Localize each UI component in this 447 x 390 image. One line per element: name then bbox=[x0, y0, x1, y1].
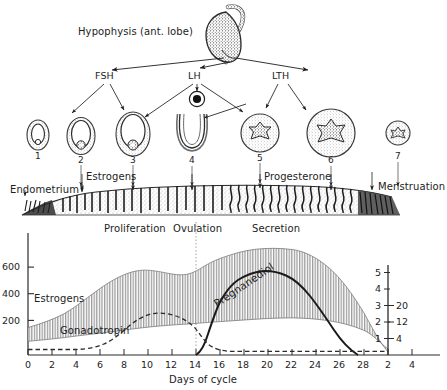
x-tick-10: 10 bbox=[141, 360, 153, 370]
figure-root: Hypophysis (ant. lobe) FSH LH LTH 1 2 3 … bbox=[0, 0, 447, 390]
x-tick-14: 14 bbox=[189, 360, 201, 370]
series-label-estrogens: Estrogens bbox=[34, 294, 84, 304]
stage-number-5: 5 bbox=[257, 154, 263, 163]
hypophysis-label: Hypophysis (ant. lobe) bbox=[78, 27, 193, 37]
y-right2-tick-4: 4 bbox=[396, 334, 402, 344]
y-right-tick-4: 4 bbox=[375, 284, 381, 294]
y-left-tick-200: 200 bbox=[2, 316, 20, 326]
y-right2-tick-20: 20 bbox=[396, 301, 408, 311]
target-arrows bbox=[72, 84, 306, 118]
x-tick-8: 8 bbox=[121, 360, 127, 370]
y-right-tick-5: 5 bbox=[375, 268, 381, 278]
phase-label-secretion: Secretion bbox=[252, 224, 300, 234]
hormone-label-fsh: FSH bbox=[95, 71, 114, 81]
x-axis-title: Days of cycle bbox=[169, 375, 237, 385]
x-tick-6: 6 bbox=[97, 360, 103, 370]
follicle-stage-1 bbox=[27, 120, 49, 150]
x-tick-next-2: 2 bbox=[385, 360, 391, 370]
follicle-stage-3 bbox=[116, 112, 150, 156]
x-tick-28: 28 bbox=[357, 360, 369, 370]
corpus-luteum-stage-6 bbox=[307, 109, 355, 157]
y-right-tick-1: 1 bbox=[375, 334, 381, 344]
stage-number-3: 3 bbox=[130, 156, 136, 165]
progesterone-annotation-label: Progesterone bbox=[264, 172, 331, 182]
ovum-icon bbox=[189, 91, 204, 106]
stage-number-6: 6 bbox=[328, 156, 334, 165]
endometrium-label: Endometrium bbox=[10, 185, 79, 195]
x-tick-22: 22 bbox=[285, 360, 297, 370]
hormone-label-lth: LTH bbox=[272, 71, 289, 81]
x-tick-next-4: 4 bbox=[409, 360, 415, 370]
phase-label-proliferation: Proliferation bbox=[104, 224, 166, 234]
stage-number-7: 7 bbox=[395, 152, 401, 161]
estrogens-annotation-label: Estrogens bbox=[86, 172, 136, 182]
x-tick-4: 4 bbox=[73, 360, 79, 370]
y-right2-tick-12: 12 bbox=[396, 317, 408, 327]
hormone-arrows bbox=[112, 58, 308, 70]
x-tick-18: 18 bbox=[237, 360, 249, 370]
x-tick-26: 26 bbox=[333, 360, 345, 370]
y-right-tick-2: 2 bbox=[375, 317, 381, 327]
y-left-tick-600: 600 bbox=[2, 262, 20, 272]
x-tick-2: 2 bbox=[49, 360, 55, 370]
x-tick-16: 16 bbox=[213, 360, 225, 370]
y-right-tick-3: 3 bbox=[375, 301, 381, 311]
x-tick-20: 20 bbox=[261, 360, 273, 370]
stage-number-1: 1 bbox=[35, 152, 41, 161]
corpus-albicans-stage-7 bbox=[386, 121, 410, 145]
phase-label-ovulation: Ovulation bbox=[173, 224, 222, 234]
menstruation-label: Menstruation bbox=[378, 182, 445, 192]
x-tick-24: 24 bbox=[309, 360, 321, 370]
follicle-stage-4-ruptured bbox=[177, 114, 207, 151]
hypophysis-icon bbox=[206, 6, 243, 62]
stage-number-2: 2 bbox=[78, 156, 84, 165]
y-left-tick-400: 400 bbox=[2, 289, 20, 299]
x-tick-0: 0 bbox=[25, 360, 31, 370]
stage-number-4: 4 bbox=[189, 156, 195, 165]
hormone-label-lh: LH bbox=[188, 71, 201, 81]
x-tick-12: 12 bbox=[165, 360, 177, 370]
follicle-stage-2 bbox=[67, 118, 95, 155]
corpus-luteum-stage-5 bbox=[241, 114, 279, 152]
series-label-gonadotropin: Gonadotropin bbox=[60, 326, 129, 336]
